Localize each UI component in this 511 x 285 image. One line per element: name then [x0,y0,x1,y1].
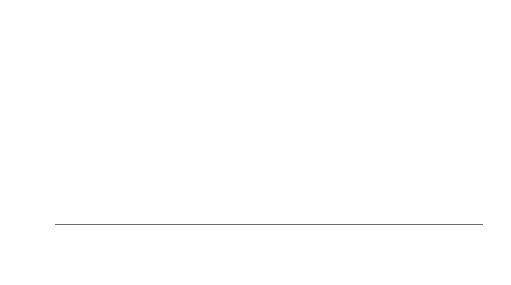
life-stage-brackets [0,252,511,282]
x-axis-ticks [0,225,511,255]
chart-svg [55,12,483,222]
plot-area [55,12,483,222]
y-axis-label [4,0,22,50]
sleep-chart [0,0,511,285]
y-axis-label-wrap [0,0,30,230]
